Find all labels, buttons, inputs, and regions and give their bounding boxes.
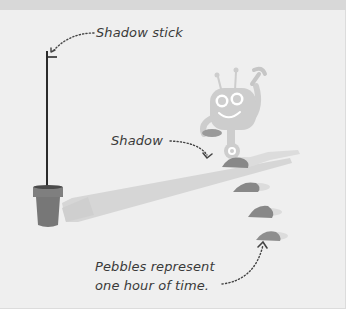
robot [202,68,265,160]
pebble-2 [233,182,270,192]
pebble-4 [256,231,288,241]
label-shadow-stick: Shadow stick [96,25,183,40]
label-shadow-stick-text: Shadow stick [96,25,183,40]
label-pebbles: Pebbles represent one hour of time. [95,257,215,295]
flowerpot [33,185,63,227]
label-shadow: Shadow [111,133,163,148]
leader-shadow-stick [54,33,94,50]
pebble-3 [248,206,282,218]
label-shadow-text: Shadow [111,133,163,148]
label-pebbles-line1: Pebbles represent [95,257,215,276]
label-pebbles-line2: one hour of time. [95,276,215,295]
shadow-stick [47,51,57,188]
leader-shadow [170,141,207,155]
leader-pebbles [222,245,263,284]
